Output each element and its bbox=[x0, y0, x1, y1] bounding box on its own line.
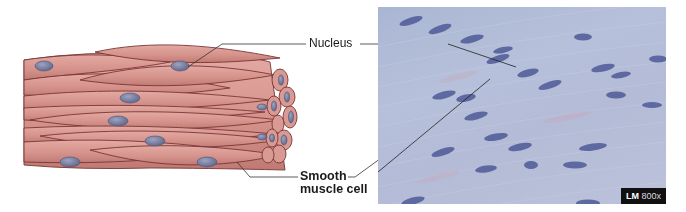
smooth-muscle-label-line2: muscle cell bbox=[300, 183, 367, 196]
micrograph-texture bbox=[378, 7, 666, 204]
smooth-muscle-cell-label: Smooth muscle cell bbox=[300, 170, 367, 196]
nucleus-label: Nucleus bbox=[309, 37, 352, 50]
badge-type: LM bbox=[626, 191, 639, 201]
magnification-badge: LM 800x bbox=[621, 188, 666, 204]
badge-magnification: 800x bbox=[641, 191, 661, 201]
muscle-bundle bbox=[24, 45, 285, 170]
light-micrograph: LM 800x bbox=[378, 7, 666, 204]
